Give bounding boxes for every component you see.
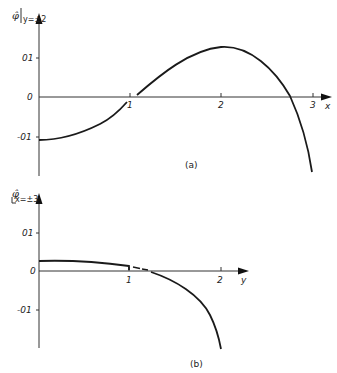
panel-a: φ̂ y=±2 01 0 -01 1 2 3 x (a)	[12, 8, 332, 176]
curve-a-right	[137, 47, 312, 172]
x-tick-label: 1	[127, 100, 133, 110]
y-tick-label: -01	[17, 132, 32, 142]
x-axis-label-b: y	[240, 275, 247, 285]
y-tick-label: 01	[22, 228, 33, 238]
x-tick-label: 1	[126, 275, 132, 285]
y-tick-label: -01	[17, 305, 32, 315]
y-tick-label: 0	[30, 266, 36, 276]
y-tick-label: 01	[22, 53, 33, 63]
y-axis-subscript-a: y=±2	[23, 15, 46, 24]
panel-label-a: (a)	[185, 160, 198, 170]
panel-label-b: (b)	[190, 359, 203, 369]
x-tick-label: 3	[310, 100, 316, 110]
panel-b: φ̂ x=±3 01 0 -01 1 2 y (b)	[12, 188, 249, 369]
y-axis-label-a: φ̂	[12, 10, 19, 21]
x-axis-arrow-icon	[321, 94, 332, 101]
y-tick-label: 0	[27, 92, 33, 102]
curve-b-left	[39, 261, 129, 270]
x-tick-label: 2	[217, 275, 223, 285]
figure: φ̂ y=±2 01 0 -01 1 2 3 x (a) φ̂ x=±3 01 …	[0, 0, 337, 373]
x-tick-label: 2	[218, 100, 224, 110]
curve-a-left	[39, 102, 127, 140]
x-axis-arrow-icon	[238, 268, 249, 275]
y-axis-subscript-b: x=±3	[15, 195, 38, 204]
x-axis-label-a: x	[324, 101, 331, 111]
curve-b-right	[151, 272, 221, 349]
curve-b-dashed	[133, 267, 148, 270]
